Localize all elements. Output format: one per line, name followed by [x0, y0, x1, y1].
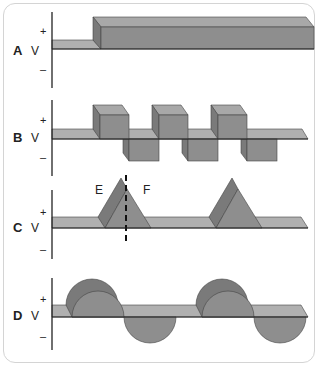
plus-sign: + [40, 25, 46, 37]
negative-pulses [123, 139, 277, 161]
axis-label-v: V [31, 221, 39, 235]
panel-a: A V + – [13, 12, 314, 88]
zero-band [52, 217, 308, 228]
axis-label-v: V [31, 131, 39, 145]
plus-sign: + [40, 206, 46, 218]
axis-label-v: V [31, 44, 39, 58]
triangle-pulse [209, 178, 262, 228]
panel-letter: D [13, 308, 22, 323]
minus-sign: – [40, 243, 47, 255]
panel-letter: C [13, 220, 23, 235]
negative-half-waves [124, 317, 306, 343]
minus-sign: – [40, 63, 47, 75]
low-level-band [52, 40, 101, 49]
panel-c: C V + – E F [13, 175, 308, 259]
waveform-diagram: A V + – B V + – [0, 0, 318, 368]
axis-label-v: V [31, 309, 39, 323]
positive-pulses [93, 105, 247, 139]
minus-sign: – [40, 330, 47, 342]
plus-sign: + [40, 114, 46, 126]
annotation-e: E [95, 183, 103, 197]
minus-sign: – [40, 151, 47, 163]
panel-d: D V + – [13, 278, 308, 350]
panel-letter: A [13, 43, 23, 58]
step-top-face [93, 17, 314, 27]
step-front-face [101, 27, 314, 49]
panel-letter: B [13, 130, 22, 145]
annotation-f: F [143, 183, 150, 197]
plus-sign: + [40, 293, 46, 305]
panel-b: B V + – [13, 100, 308, 176]
